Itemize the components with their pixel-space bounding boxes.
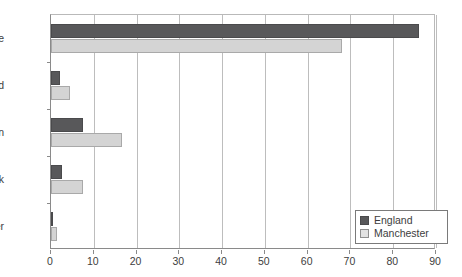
x-axis-label: 60 <box>292 256 322 267</box>
chart-legend: England Manchester <box>355 210 448 244</box>
y-axis-label-other: Other <box>0 221 4 232</box>
x-axis-label: 90 <box>420 256 450 267</box>
gridline <box>350 15 351 248</box>
x-axis-label: 80 <box>377 256 407 267</box>
y-axis-label-black: Black <box>0 174 4 185</box>
bar-mixed-england <box>51 71 60 85</box>
legend-item-england: England <box>360 214 443 227</box>
y-axis-tick <box>47 203 51 204</box>
bar-mixed-manchester <box>51 86 70 100</box>
bar-other-england <box>51 212 53 226</box>
y-axis-label-white: White <box>0 33 4 44</box>
bar-black-england <box>51 165 62 179</box>
legend-item-manchester: Manchester <box>360 227 443 240</box>
bar-other-manchester <box>51 227 57 241</box>
bar-white-england <box>51 24 419 38</box>
bar-asian-manchester <box>51 133 122 147</box>
bar-asian-england <box>51 118 83 132</box>
bar-white-manchester <box>51 39 342 53</box>
x-axis-tick <box>349 250 350 254</box>
y-axis-label-asian: Asian <box>0 127 4 138</box>
y-axis-tick <box>47 62 51 63</box>
y-axis-label-mixed: Mixed <box>0 80 4 91</box>
x-axis-label: 10 <box>78 256 108 267</box>
x-axis-tick <box>264 250 265 254</box>
x-axis-label: 30 <box>163 256 193 267</box>
x-axis-tick <box>50 250 51 254</box>
legend-label-england: England <box>374 215 413 226</box>
x-axis-tick <box>221 250 222 254</box>
x-axis-label: 50 <box>249 256 279 267</box>
x-axis-label: 70 <box>334 256 364 267</box>
x-axis-tick <box>178 250 179 254</box>
bar-black-manchester <box>51 180 83 194</box>
x-axis-label: 40 <box>206 256 236 267</box>
x-axis-label: 0 <box>35 256 65 267</box>
legend-swatch-icon-england <box>360 216 369 225</box>
y-axis-tick <box>47 109 51 110</box>
x-axis-tick <box>93 250 94 254</box>
bar-chart: 0102030405060708090WhiteMixedAsianBlackO… <box>0 0 462 277</box>
legend-label-manchester: Manchester <box>374 228 429 239</box>
x-axis-tick <box>136 250 137 254</box>
x-axis-label: 20 <box>121 256 151 267</box>
x-axis-tick <box>307 250 308 254</box>
y-axis-tick <box>47 156 51 157</box>
x-axis-tick <box>435 250 436 254</box>
x-axis-tick <box>392 250 393 254</box>
legend-swatch-icon-manchester <box>360 229 369 238</box>
